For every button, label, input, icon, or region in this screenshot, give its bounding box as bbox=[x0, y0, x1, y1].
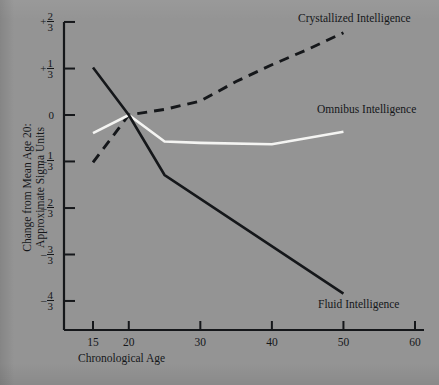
series-label-fluid: Fluid Intelligence bbox=[318, 298, 399, 310]
series-lines bbox=[93, 33, 343, 294]
y-tick-label-1: +13 bbox=[20, 58, 54, 79]
plot-area bbox=[0, 0, 439, 385]
series-line-fluid bbox=[93, 68, 343, 294]
x-tick-label-2: 30 bbox=[185, 336, 215, 348]
y-tick-label-4: –23 bbox=[20, 197, 54, 218]
y-tick-label-6: –43 bbox=[20, 290, 54, 311]
series-label-omnibus: Omnibus Intelligence bbox=[317, 103, 416, 115]
x-tick-label-1: 20 bbox=[114, 336, 144, 348]
y-tick-label-3: –13 bbox=[20, 150, 54, 171]
axes bbox=[64, 22, 424, 330]
x-tick-label-4: 50 bbox=[328, 336, 358, 348]
series-label-crystallized: Crystallized Intelligence bbox=[298, 12, 411, 24]
y-tick-label-5: –33 bbox=[20, 244, 54, 265]
y-tick-label-0: +23 bbox=[20, 11, 54, 32]
x-tick-label-3: 40 bbox=[257, 336, 287, 348]
y-tick-label-2: 0 bbox=[20, 108, 54, 121]
x-tick-label-5: 60 bbox=[400, 336, 430, 348]
x-tick-label-0: 15 bbox=[78, 336, 108, 348]
x-axis-title: Chronological Age bbox=[78, 352, 165, 364]
chart-figure: Change from Mean Age 20: Approximate Sig… bbox=[0, 0, 439, 385]
